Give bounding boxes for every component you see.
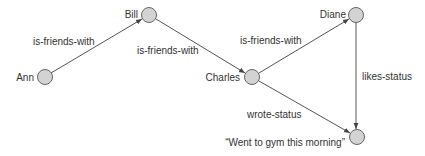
- node-diane-label: Diane: [320, 9, 347, 20]
- node-status-circle[interactable]: [350, 130, 365, 145]
- node-diane[interactable]: Diane: [320, 8, 364, 23]
- edge-label-ann-bill: is-friends-with: [33, 36, 95, 47]
- edges: [51, 19, 356, 133]
- node-charles[interactable]: Charles: [206, 70, 260, 85]
- node-status-label: “Went to gym this morning”: [225, 137, 345, 148]
- node-bill-circle[interactable]: [142, 8, 157, 23]
- node-diane-circle[interactable]: [349, 8, 364, 23]
- edge-charles-status: [259, 81, 350, 133]
- edge-label-charles-status: wrote-status: [246, 109, 301, 120]
- node-status[interactable]: “Went to gym this morning”: [225, 130, 364, 149]
- edge-label-bill-charles: is-friends-with: [137, 45, 199, 56]
- node-bill-label: Bill: [125, 9, 138, 20]
- node-charles-label: Charles: [206, 72, 240, 83]
- node-ann-circle[interactable]: [38, 70, 53, 85]
- nodes: Ann Bill Charles Diane “Went to gym this…: [16, 8, 364, 149]
- graph-diagram: is-friends-with is-friends-with is-frien…: [0, 0, 425, 156]
- node-ann[interactable]: Ann: [16, 70, 52, 85]
- edge-label-charles-diane: is-friends-with: [240, 35, 302, 46]
- node-ann-label: Ann: [16, 72, 34, 83]
- edge-charles-diane: [259, 19, 349, 73]
- edge-label-diane-status: likes-status: [362, 71, 412, 82]
- node-charles-circle[interactable]: [245, 70, 260, 85]
